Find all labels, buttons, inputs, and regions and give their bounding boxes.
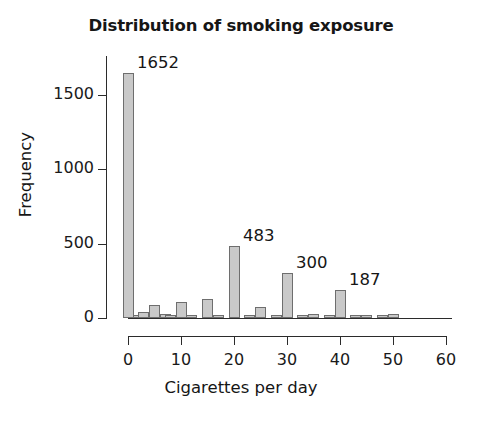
plot-area: [128, 58, 446, 318]
x-tick-label: 30: [267, 350, 307, 369]
x-tick-mark: [340, 336, 341, 345]
x-tick-mark: [234, 336, 235, 345]
bar: [255, 307, 266, 318]
bar: [271, 315, 282, 318]
chart-figure: Distribution of smoking exposure Frequen…: [0, 0, 482, 424]
x-tick-label: 60: [426, 350, 466, 369]
y-axis-title: Frequency: [16, 95, 35, 255]
x-axis-title: Cigarettes per day: [0, 378, 482, 397]
bar: [176, 302, 187, 318]
x-tick-mark: [181, 336, 182, 345]
bar: [297, 315, 308, 318]
bar: [324, 315, 335, 318]
bar-value-label: 300: [296, 253, 328, 272]
bar: [350, 315, 361, 318]
bar: [335, 290, 346, 318]
y-tick-mark: [98, 244, 107, 245]
x-tick-label: 20: [214, 350, 254, 369]
bar: [213, 315, 224, 318]
y-tick-label: 1500: [53, 84, 94, 103]
x-axis-baseline: [128, 318, 452, 319]
bar: [377, 315, 388, 318]
y-tick-label: 0: [84, 307, 94, 326]
x-tick-label: 10: [161, 350, 201, 369]
bar: [138, 312, 149, 318]
bar-value-label: 187: [349, 270, 381, 289]
bar: [123, 73, 134, 318]
bar: [202, 299, 213, 318]
bar: [165, 315, 176, 318]
x-tick-label: 50: [373, 350, 413, 369]
y-tick-mark: [98, 95, 107, 96]
bar: [186, 315, 197, 318]
x-tick-mark: [287, 336, 288, 345]
bar: [149, 305, 160, 318]
bar: [361, 315, 372, 318]
chart-title: Distribution of smoking exposure: [0, 16, 482, 35]
bar: [244, 315, 255, 318]
bar: [388, 314, 399, 318]
y-tick-mark: [98, 169, 107, 170]
x-tick-mark: [446, 336, 447, 345]
x-tick-mark: [393, 336, 394, 345]
bar: [282, 273, 293, 318]
bar: [308, 314, 319, 318]
bar-value-label: 483: [243, 226, 275, 245]
x-tick-mark: [128, 336, 129, 345]
x-tick-label: 0: [108, 350, 148, 369]
y-tick-label: 500: [63, 233, 94, 252]
x-tick-label: 40: [320, 350, 360, 369]
y-tick-label: 1000: [53, 158, 94, 177]
bar: [229, 246, 240, 318]
bar-value-label: 1652: [137, 53, 179, 72]
y-tick-mark: [98, 318, 107, 319]
